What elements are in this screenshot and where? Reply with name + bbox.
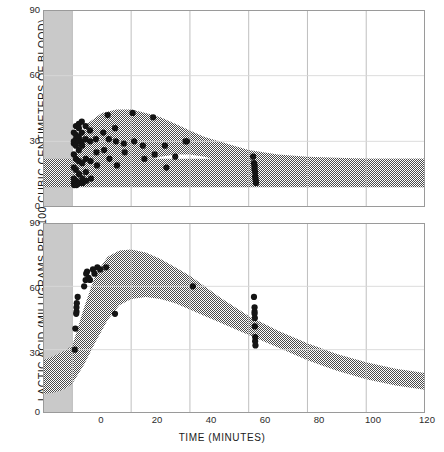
- data-point: [93, 136, 99, 142]
- data-point: [88, 175, 94, 181]
- data-point: [114, 162, 120, 168]
- y-tick-lower-30: 30: [18, 347, 40, 358]
- data-point: [113, 138, 119, 144]
- data-point: [105, 112, 111, 118]
- data-point: [75, 294, 81, 300]
- data-point: [131, 138, 137, 144]
- x-tick-100: 100: [360, 414, 386, 425]
- data-point: [106, 136, 112, 142]
- x-tick-20: 20: [144, 414, 170, 425]
- data-point: [130, 110, 136, 116]
- data-point: [251, 294, 257, 300]
- data-point: [91, 271, 97, 277]
- data-point: [106, 156, 112, 162]
- data-point: [79, 129, 85, 135]
- y-tick-lower-60: 60: [18, 282, 40, 293]
- x-tick-60: 60: [252, 414, 278, 425]
- data-point: [190, 283, 196, 289]
- data-point: [112, 311, 118, 317]
- data-point: [94, 162, 100, 168]
- data-point: [87, 127, 93, 133]
- data-point: [163, 165, 169, 171]
- y-tick-upper-90: 90: [18, 4, 40, 15]
- data-point: [184, 138, 190, 144]
- plot-canvas: [43, 10, 425, 207]
- data-point: [172, 154, 178, 160]
- data-point: [83, 123, 89, 129]
- data-point: [101, 147, 107, 153]
- data-point: [81, 283, 87, 289]
- x-axis-label: TIME (MINUTES): [0, 432, 444, 443]
- data-point: [79, 143, 85, 149]
- upper-panel: [43, 10, 425, 207]
- y-tick-upper-30: 30: [18, 135, 40, 146]
- x-tick-120: 120: [414, 414, 440, 425]
- data-point: [83, 169, 89, 175]
- data-point: [87, 277, 93, 283]
- data-point: [100, 129, 106, 135]
- data-point: [121, 140, 127, 146]
- x-tick-40: 40: [198, 414, 224, 425]
- lower-panel: [43, 223, 425, 413]
- data-point: [252, 323, 258, 329]
- data-point: [252, 315, 258, 321]
- data-point: [250, 154, 256, 160]
- data-point: [87, 138, 93, 144]
- data-point: [162, 143, 168, 149]
- y-tick-lower-0: 0: [18, 406, 40, 417]
- data-point: [152, 151, 158, 157]
- data-point: [150, 114, 156, 120]
- data-point: [112, 125, 118, 131]
- data-point: [88, 158, 94, 164]
- data-point: [252, 342, 258, 348]
- data-point: [93, 149, 99, 155]
- data-point: [74, 300, 80, 306]
- x-tick-0: 0: [88, 414, 114, 425]
- data-point: [140, 143, 146, 149]
- data-point: [97, 266, 103, 272]
- data-point: [122, 149, 128, 155]
- y-tick-upper-0: 0: [18, 200, 40, 211]
- data-point: [103, 264, 109, 270]
- data-point: [72, 347, 78, 353]
- data-point: [253, 180, 259, 186]
- data-point: [72, 325, 78, 331]
- data-point: [84, 268, 90, 274]
- plot-canvas: [43, 223, 425, 413]
- y-tick-upper-60: 60: [18, 69, 40, 80]
- data-point: [141, 156, 147, 162]
- lactic-acid-figure: LACTIC ACID (MILLIGRAMS PER 100 CUBIC CE…: [0, 0, 444, 452]
- x-tick-80: 80: [306, 414, 332, 425]
- y-tick-lower-90: 90: [18, 217, 40, 228]
